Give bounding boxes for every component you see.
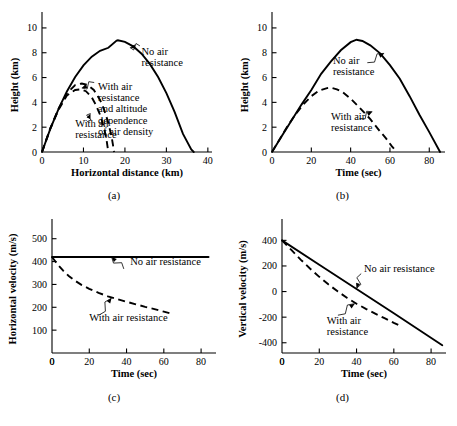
y-tick-label: 8 <box>262 47 267 58</box>
annotation-group: No airresistance <box>333 53 384 77</box>
y-tick-label: 200 <box>32 302 47 313</box>
y-axis-title: Height (km) <box>9 57 21 112</box>
annotation-group: With airresistance <box>327 304 369 337</box>
x-tick-label: 0 <box>40 155 45 166</box>
x-tick-label: 40 <box>352 356 362 367</box>
chart-svg-b: 0204060800246810No airresistanceWith air… <box>228 0 457 213</box>
annotation-label: resistance <box>142 57 184 68</box>
x-tick-label: 0 <box>270 155 275 166</box>
x-tick-label: 80 <box>424 155 434 166</box>
projectile-motion-figure: 0102030400246810No airresistanceWith air… <box>0 0 457 426</box>
y-axis-title: Vertical velocity (m/s) <box>237 240 249 338</box>
x-tick-label: 30 <box>161 155 171 166</box>
y-tick-label: 2 <box>262 122 267 133</box>
annotation-label: With air <box>98 81 133 92</box>
x-axis-title: Time (sec) <box>335 167 382 179</box>
x-tick-label: 60 <box>385 155 395 166</box>
panel-caption: (c) <box>108 391 121 404</box>
x-tick-label: 40 <box>346 155 356 166</box>
y-tick-label: 0 <box>32 147 37 158</box>
chart-svg-a: 0102030400246810No airresistanceWith air… <box>0 0 228 213</box>
axes-b: 0204060800246810 <box>257 12 445 166</box>
annotation-group: No air resistance <box>112 256 202 268</box>
panel-caption: (d) <box>336 391 349 404</box>
annotation-label: With air <box>75 118 110 129</box>
y-tick-label: 4 <box>32 97 37 108</box>
x-tick-label: 20 <box>306 155 316 166</box>
annotation-group: With airresistance <box>331 111 373 133</box>
y-tick-label: 400 <box>32 256 47 267</box>
chart-panel-b: 0204060800246810No airresistanceWith air… <box>228 0 457 213</box>
y-tick-label: -200 <box>259 312 277 323</box>
panel-caption: (a) <box>108 189 121 202</box>
annotation-label: resistance <box>331 122 373 133</box>
x-tick-label: 80 <box>196 356 206 367</box>
annotation-label: resistance <box>333 66 375 77</box>
annotation-group: No airresistance <box>130 44 183 69</box>
y-tick-label: 6 <box>262 72 267 83</box>
annotation-label: No air resistance <box>364 263 435 274</box>
x-tick-label: 20 <box>314 356 324 367</box>
annotation-label: resistance <box>75 129 117 140</box>
leader-arrowhead <box>367 112 373 116</box>
y-tick-label: 8 <box>32 47 37 58</box>
x-tick-label: 0 <box>50 356 55 367</box>
x-axis-title: Horizontal distance (km) <box>71 167 183 179</box>
x-tick-label: 20 <box>120 155 130 166</box>
chart-panel-a: 0102030400246810No airresistanceWith air… <box>0 0 228 213</box>
annotation-label: resistance <box>327 326 369 337</box>
annotation-label: resistance <box>98 92 140 103</box>
y-tick-label: 0 <box>272 286 277 297</box>
panel-caption: (b) <box>336 189 349 202</box>
x-tick-label: 60 <box>389 356 399 367</box>
annotation-group: With air resistance <box>89 298 168 323</box>
y-tick-label: 4 <box>262 97 267 108</box>
y-axis-title: Height (km) <box>239 57 251 112</box>
annotation-group: No air resistance <box>356 263 435 288</box>
chart-svg-d: 0204060804002000-200-4000No air resistan… <box>228 205 457 426</box>
x-tick-label: 10 <box>78 155 88 166</box>
y-tick-label: -400 <box>259 337 277 348</box>
chart-svg-c: 0204060801002003004005000No air resistan… <box>0 205 228 426</box>
y-tick-label: 0 <box>262 147 267 158</box>
x-tick-label: 60 <box>159 356 169 367</box>
y-tick-label: 10 <box>27 22 37 33</box>
annotation-label: No air <box>333 55 360 66</box>
annotation-label: With air <box>327 315 362 326</box>
y-tick-label: 6 <box>32 72 37 83</box>
y-tick-label: 500 <box>32 233 47 244</box>
x-axis-title: Time (sec) <box>111 368 158 380</box>
x-tick-label: 0 <box>280 356 285 367</box>
y-axis-title: Horizontal velocity (m/s) <box>7 233 19 344</box>
annotation-label: No air resistance <box>130 256 201 267</box>
x-tick-label: 40 <box>122 356 132 367</box>
x-tick-label: 80 <box>426 356 436 367</box>
y-tick-label: 300 <box>32 279 47 290</box>
annotation-label: No air <box>142 46 169 57</box>
annotation-label: and altitude <box>98 103 148 114</box>
y-tick-label: 400 <box>262 235 277 246</box>
y-tick-label: 10 <box>257 22 267 33</box>
x-tick-label: 20 <box>84 356 94 367</box>
x-axis-title: Time (sec) <box>341 368 388 380</box>
y-tick-label: 2 <box>32 122 37 133</box>
leader-arrowhead <box>107 298 112 304</box>
y-tick-label: 200 <box>262 260 277 271</box>
series-curve <box>282 240 401 326</box>
chart-panel-c: 0204060801002003004005000No air resistan… <box>0 205 228 426</box>
axes-d: 0204060804002000-200-4000 <box>259 219 446 367</box>
x-tick-label: 40 <box>203 155 213 166</box>
chart-panel-d: 0204060804002000-200-4000No air resistan… <box>228 205 457 426</box>
annotation-label: With air <box>331 111 366 122</box>
y-tick-label: 100 <box>32 325 47 336</box>
axes-c: 0204060801002003004005000 <box>32 219 216 367</box>
